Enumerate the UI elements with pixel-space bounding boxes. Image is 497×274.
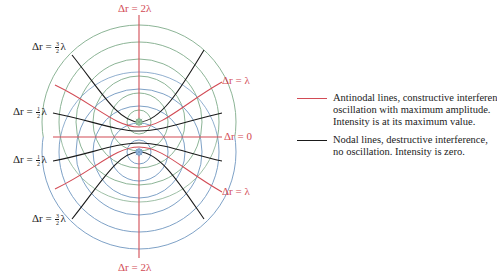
label-right-upper-lambda: Δr = λ <box>222 75 250 86</box>
legend-antinodal-line-3: Intensity is at its maximum value. <box>333 116 497 128</box>
legend-antinodal-line-1: Antinodal lines, constructive interferen <box>333 92 497 104</box>
legend-nodal-line-1: Nodal lines, destructive interference, <box>333 134 488 146</box>
label-bottom-2lambda: Δr = 2λ <box>118 262 151 273</box>
nodal-swatch <box>297 140 327 141</box>
label-right-lower-lambda: Δr = λ <box>222 186 250 197</box>
label-right-center-zero: Δr = 0 <box>224 131 252 142</box>
legend-antinodal-line-2: oscillation with maximum amplitude. <box>333 104 497 116</box>
antinodal-lines <box>53 15 222 258</box>
label-left-upper-one-half: Δr = 12λ <box>13 106 47 119</box>
legend: Antinodal lines, constructive interferen… <box>297 92 457 162</box>
label-top-2lambda: Δr = 2λ <box>118 3 151 14</box>
label-left-lower-three-halves: Δr = 32λ <box>32 213 66 226</box>
legend-nodal-line-2: no oscillation. Intensity is zero. <box>333 146 488 158</box>
label-left-upper-three-halves: Δr = 32λ <box>32 41 66 54</box>
source-lower-icon <box>135 148 144 157</box>
label-left-lower-one-half: Δr = 12λ <box>13 154 47 167</box>
antinodal-swatch <box>297 98 327 99</box>
source-upper-icon <box>135 118 144 127</box>
